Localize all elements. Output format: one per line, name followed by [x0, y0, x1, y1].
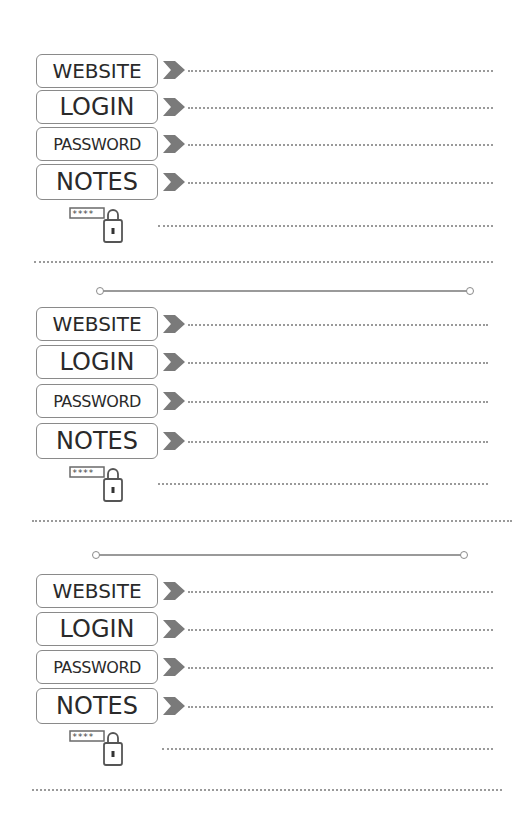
password-lock-icon: ****	[68, 206, 128, 246]
divider-end-right	[460, 551, 468, 559]
svg-text:****: ****	[72, 468, 94, 478]
divider-end-left	[96, 287, 104, 295]
chevron-right-icon	[163, 61, 185, 79]
chevron-right-icon	[163, 135, 185, 153]
password-label: PASSWORD	[36, 127, 158, 161]
website-label: WEBSITE	[36, 574, 158, 608]
notes-label: NOTES	[36, 688, 158, 724]
divider-end-right	[466, 287, 474, 295]
website-label: WEBSITE	[36, 307, 158, 341]
login-field[interactable]	[188, 629, 493, 631]
website-field[interactable]	[188, 591, 493, 593]
password-label: PASSWORD	[36, 650, 158, 684]
section-divider	[96, 554, 464, 556]
chevron-right-icon	[163, 620, 185, 638]
chevron-right-icon	[163, 173, 185, 191]
notes-field[interactable]	[188, 441, 488, 443]
divider-end-left	[92, 551, 100, 559]
separator-dots	[32, 520, 512, 522]
separator-dots	[34, 261, 493, 263]
login-field[interactable]	[188, 362, 488, 364]
chevron-right-icon	[163, 98, 185, 116]
website-label: WEBSITE	[36, 54, 158, 88]
notes-label: NOTES	[36, 164, 158, 200]
website-field[interactable]	[188, 324, 488, 326]
password-field[interactable]	[188, 667, 493, 669]
chevron-right-icon	[163, 658, 185, 676]
notes-field[interactable]	[188, 706, 493, 708]
password-entry-1: WEBSITE LOGIN PASSWORD NOTES ****	[0, 54, 521, 284]
extra-field[interactable]	[162, 748, 493, 750]
password-lock-icon: ****	[68, 465, 128, 505]
svg-text:****: ****	[72, 732, 94, 742]
password-entry-2: WEBSITE LOGIN PASSWORD NOTES ****	[0, 307, 521, 537]
login-field[interactable]	[188, 107, 493, 109]
password-field[interactable]	[188, 144, 493, 146]
section-divider	[100, 290, 470, 292]
chevron-right-icon	[163, 315, 185, 333]
chevron-right-icon	[163, 697, 185, 715]
chevron-right-icon	[163, 353, 185, 371]
extra-field[interactable]	[158, 225, 493, 227]
notes-label: NOTES	[36, 423, 158, 459]
password-entry-3: WEBSITE LOGIN PASSWORD NOTES ****	[0, 574, 521, 804]
chevron-right-icon	[163, 582, 185, 600]
chevron-right-icon	[163, 432, 185, 450]
login-label: LOGIN	[36, 90, 158, 124]
password-lock-icon: ****	[68, 729, 128, 769]
website-field[interactable]	[188, 70, 493, 72]
password-field[interactable]	[188, 401, 488, 403]
login-label: LOGIN	[36, 612, 158, 646]
svg-text:****: ****	[72, 209, 94, 219]
notes-field[interactable]	[188, 182, 493, 184]
extra-field[interactable]	[158, 483, 488, 485]
password-label: PASSWORD	[36, 384, 158, 418]
chevron-right-icon	[163, 392, 185, 410]
separator-dots	[32, 789, 502, 791]
login-label: LOGIN	[36, 345, 158, 379]
